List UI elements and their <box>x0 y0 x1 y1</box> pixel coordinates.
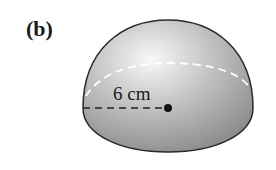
center-point <box>164 104 172 112</box>
hemisphere-diagram: 6 cm <box>0 0 276 170</box>
radius-label: 6 cm <box>113 83 151 104</box>
hemisphere-body <box>83 20 253 152</box>
